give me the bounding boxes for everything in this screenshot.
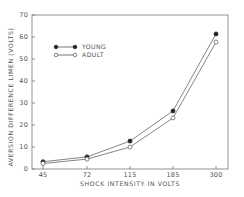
y-tick-label: 20 (19, 121, 28, 129)
y-tick-label: 10 (19, 143, 28, 151)
open-circle-marker (73, 53, 77, 57)
filled-circle-marker (171, 109, 175, 113)
filled-circle-marker (214, 32, 218, 36)
y-tick-label: 0 (24, 165, 28, 173)
filled-circle-marker (54, 45, 58, 49)
filled-circle-marker (73, 45, 77, 49)
series-layer (41, 32, 218, 166)
y-tick-label: 60 (19, 33, 28, 41)
y-tick-label: 30 (19, 99, 28, 107)
y-tick-label: 50 (19, 55, 28, 63)
x-tick-label: 72 (83, 171, 92, 179)
x-tick-label: 185 (166, 171, 179, 179)
legend-item-adult: ADULT (54, 51, 104, 58)
legend-label: YOUNG (81, 43, 106, 50)
y-axis-ticks: 010203040506070 (19, 11, 35, 173)
y-tick-label: 40 (19, 77, 28, 85)
open-circle-marker (41, 162, 45, 166)
legend-label: ADULT (82, 51, 104, 58)
x-tick-label: 300 (209, 171, 222, 179)
line-chart: 010203040506070 4572115185300 YOUNGADULT… (0, 0, 244, 197)
legend-item-young: YOUNG (54, 43, 106, 50)
x-axis-title: SHOCK INTENSITY IN VOLTS (80, 180, 180, 187)
series-young (41, 32, 218, 164)
filled-circle-marker (128, 139, 132, 143)
x-tick-label: 45 (39, 171, 48, 179)
open-circle-marker (171, 116, 175, 120)
open-circle-marker (214, 40, 218, 44)
y-axis-title: AVERSION DIFFERENCE LIMEN (VOLTS) (7, 27, 14, 166)
x-tick-label: 115 (123, 171, 136, 179)
open-circle-marker (54, 53, 58, 57)
legend: YOUNGADULT (54, 43, 106, 58)
open-circle-marker (128, 145, 132, 149)
open-circle-marker (85, 157, 89, 161)
series-adult (41, 40, 218, 165)
y-tick-label: 70 (19, 11, 28, 19)
x-axis-ticks: 4572115185300 (39, 166, 223, 179)
